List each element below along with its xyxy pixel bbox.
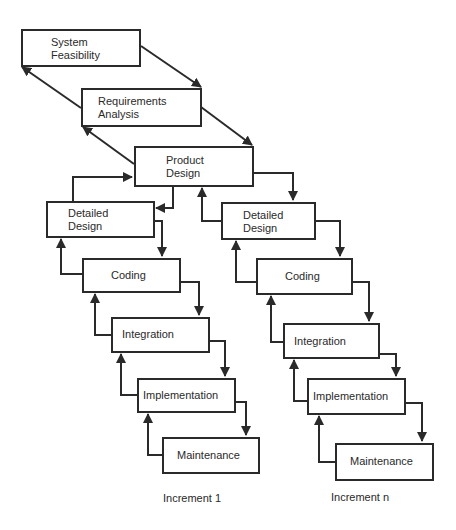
- stage-label: Maintenance: [177, 449, 240, 462]
- incn-coding: Coding: [256, 258, 353, 295]
- stage-label: Requirements Analysis: [98, 95, 166, 121]
- arrow-impl1-to-maint1: [235, 402, 246, 435]
- stage-label: Integration: [122, 328, 174, 341]
- stage-label: Implementation: [313, 390, 388, 403]
- stage-product-design: Product Design: [134, 146, 254, 187]
- arrow-requirements-to-feasibility: [22, 67, 81, 108]
- incn-integration: Integration: [283, 323, 380, 359]
- stage-label: Implementation: [143, 389, 218, 402]
- arrow-impl1-to-integration1: [121, 354, 137, 395]
- inc1-coding: Coding: [82, 258, 181, 293]
- stage-label: Maintenance: [350, 455, 413, 468]
- arrow-integration1-to-coding1: [95, 294, 111, 335]
- arrow-dd1-to-coding1: [154, 221, 162, 256]
- stage-label: Detailed Design: [68, 207, 108, 233]
- increment-n-caption: Increment n: [331, 491, 389, 503]
- stage-system-feasibility: System Feasibility: [21, 29, 141, 67]
- arrow-product-to-detailed-design-1: [156, 186, 173, 208]
- inc1-implementation: Implementation: [137, 378, 236, 413]
- arrow-product-to-requirements: [83, 127, 134, 164]
- arrow-maint1-to-impl1: [148, 414, 162, 455]
- stage-label: Integration: [294, 335, 346, 348]
- stage-label: System Feasibility: [51, 36, 100, 62]
- inc1-detailed-design: Detailed Design: [46, 201, 155, 238]
- stage-label: Detailed Design: [243, 209, 283, 235]
- incn-implementation: Implementation: [307, 378, 406, 415]
- arrow-impln-to-maintn: [405, 403, 422, 441]
- incn-maintenance: Maintenance: [335, 443, 434, 481]
- arrow-coding1-to-dd1: [61, 239, 82, 274]
- arrow-detailed-design-n-to-product: [202, 188, 221, 221]
- inc1-integration: Integration: [111, 317, 210, 353]
- arrow-product-to-detailed-design-n: [253, 173, 293, 200]
- inc1-maintenance: Maintenance: [162, 437, 260, 474]
- increment-1-caption: Increment 1: [163, 492, 221, 504]
- incn-detailed-design: Detailed Design: [221, 202, 316, 240]
- stage-label: Coding: [111, 269, 146, 282]
- stage-label: Product Design: [166, 154, 204, 180]
- arrow-coding1-to-integration1: [180, 282, 199, 315]
- arrow-integration1-to-impl1: [209, 341, 225, 376]
- arrow-integrationn-to-impln: [379, 354, 396, 376]
- arrow-feasibility-to-requirements: [141, 46, 201, 87]
- arrow-codingn-to-ddn: [236, 241, 256, 282]
- arrow-codingn-to-integrationn: [352, 282, 369, 321]
- arrow-maintn-to-impln: [319, 416, 335, 462]
- arrow-impln-to-integrationn: [294, 360, 307, 401]
- arrow-integrationn-to-codingn: [271, 296, 283, 342]
- stage-requirements-analysis: Requirements Analysis: [81, 88, 202, 127]
- arrow-detailed-design-1-to-product: [73, 177, 132, 201]
- stage-label: Coding: [285, 270, 320, 283]
- arrow-ddn-to-codingn: [315, 221, 340, 256]
- arrow-requirements-to-product: [201, 107, 252, 145]
